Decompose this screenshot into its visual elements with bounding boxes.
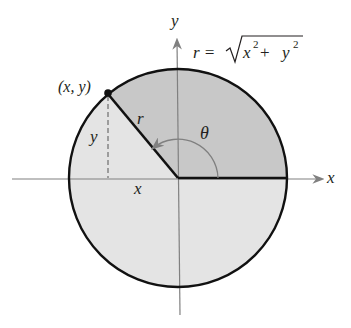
y-axis-label: y xyxy=(169,11,179,30)
theta-label: θ xyxy=(200,123,209,143)
radius-label: r xyxy=(137,109,144,128)
formula-lhs: r = xyxy=(193,43,215,62)
x-axis-label: x xyxy=(326,168,335,187)
formula-y: y xyxy=(280,43,290,62)
formula-x-exponent: 2 xyxy=(253,38,259,50)
polar-diagram: y x (x, y) r θ y x r = x 2 + y 2 xyxy=(0,0,351,328)
formula-plus: + xyxy=(260,43,270,62)
horizontal-leg-label: x xyxy=(133,179,142,198)
point-dot xyxy=(104,89,112,97)
radius-formula: r = x 2 + y 2 xyxy=(193,36,303,62)
formula-x: x xyxy=(242,43,251,62)
formula-y-exponent: 2 xyxy=(293,38,299,50)
vertical-leg-label: y xyxy=(88,127,98,146)
diagram-canvas: y x (x, y) r θ y x r = x 2 + y 2 xyxy=(0,0,351,328)
point-label: (x, y) xyxy=(58,78,91,96)
